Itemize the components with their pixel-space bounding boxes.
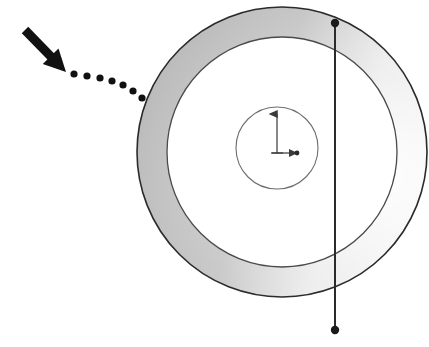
annulus-highlight xyxy=(0,0,429,347)
leader-dot xyxy=(96,74,103,81)
figure-canvas xyxy=(0,0,429,347)
shaded-annulus-group xyxy=(0,0,429,347)
axis-tip-dot xyxy=(295,151,300,156)
chord-bottom-node-dot xyxy=(331,326,339,334)
leader-dot xyxy=(129,87,136,94)
annulus-diagram-svg xyxy=(0,0,429,347)
leader-dot xyxy=(70,70,77,77)
chord-top-node-dot xyxy=(331,19,339,27)
leader-dot xyxy=(138,94,145,101)
leader-dot xyxy=(119,81,126,88)
leader-dot xyxy=(108,77,115,84)
leader-dot xyxy=(83,72,90,79)
